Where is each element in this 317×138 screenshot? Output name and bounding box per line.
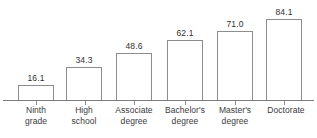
category-label-line1: Master's: [207, 105, 263, 116]
bar-rect[interactable]: [18, 85, 54, 101]
category-label-masters-degree: Master's degree: [207, 105, 263, 127]
bar-group[interactable]: 48.6: [116, 0, 152, 101]
category-label-bachelors-degree: Bachelor's degree: [155, 105, 215, 127]
bar-value-label: 71.0: [227, 19, 244, 29]
bar-value-label: 48.6: [126, 41, 143, 51]
bar-rect[interactable]: [217, 31, 253, 101]
bar-rect[interactable]: [116, 53, 152, 101]
category-label-doctorate: Doctorate: [258, 105, 314, 116]
category-label-line1: Bachelor's: [155, 105, 215, 116]
category-axis: Ninth grade High school Associate degree…: [0, 105, 317, 138]
bar-rect[interactable]: [66, 67, 102, 101]
category-label-line2: grade: [10, 116, 62, 127]
bar-group[interactable]: 62.1: [167, 0, 203, 101]
category-label-line1: Doctorate: [258, 105, 314, 116]
category-label-high-school: High school: [58, 105, 110, 127]
x-axis-line: [3, 100, 314, 101]
bar-chart-figure: 16.1 34.3 48.6 62.1 71.0 84.1: [0, 0, 317, 138]
category-label-line1: Ninth: [10, 105, 62, 116]
category-label-line2: degree: [207, 116, 263, 127]
bar-rect[interactable]: [167, 40, 203, 101]
plot-area: 16.1 34.3 48.6 62.1 71.0 84.1: [0, 0, 317, 101]
category-label-ninth-grade: Ninth grade: [10, 105, 62, 127]
category-label-line2: school: [58, 116, 110, 127]
bar-group[interactable]: 84.1: [266, 0, 302, 101]
bar-group[interactable]: 71.0: [217, 0, 253, 101]
bar-value-label: 34.3: [76, 55, 93, 65]
bar-value-label: 16.1: [28, 73, 45, 83]
bar-value-label: 84.1: [276, 7, 293, 17]
category-label-line2: degree: [155, 116, 215, 127]
category-label-line1: High: [58, 105, 110, 116]
bar-value-label: 62.1: [177, 28, 194, 38]
bar-group[interactable]: 16.1: [18, 0, 54, 101]
bar-rect[interactable]: [266, 19, 302, 101]
bar-group[interactable]: 34.3: [66, 0, 102, 101]
